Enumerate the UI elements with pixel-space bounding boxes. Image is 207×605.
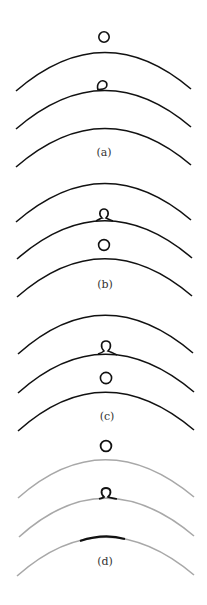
free-ring [101,441,112,452]
arc-top [16,52,191,91]
loop [99,488,117,499]
free-ring [100,372,111,383]
arc-top [16,183,191,222]
panel-label-c: (c) [100,410,115,423]
arc-middle [18,354,194,393]
loop [96,209,113,221]
free-ring [99,32,109,42]
arc-top [18,315,193,354]
arc-middle-grey [19,498,194,537]
loop [98,341,117,355]
free-ring [99,240,110,251]
arc-middle [16,90,191,129]
panel-label-d: (d) [97,555,113,568]
panel-label-a: (a) [96,146,111,159]
diagram-canvas: (a) (b) (c) (d) [0,0,207,605]
panel-label-b: (b) [97,278,113,291]
arc-top-grey [18,460,194,498]
loop [98,81,107,90]
